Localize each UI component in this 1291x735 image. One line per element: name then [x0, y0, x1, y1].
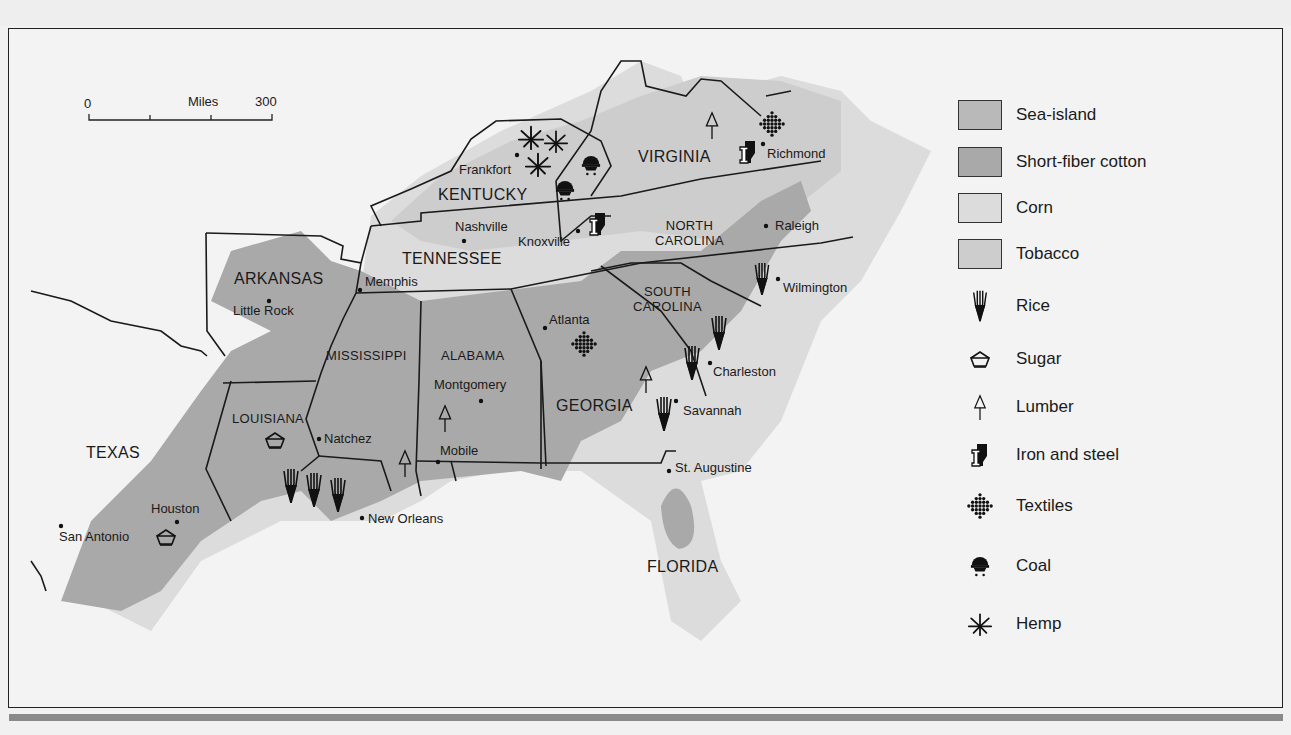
state-label-texas: TEXAS — [86, 444, 140, 462]
city-mobile: Mobile — [440, 443, 478, 458]
city-san-antonio: San Antonio — [59, 529, 129, 544]
city-natchez: Natchez — [324, 431, 372, 446]
legend-item-rice: Rice — [958, 291, 1050, 321]
lumber-icon — [958, 392, 1002, 422]
state-label-south-carolina: SOUTHCAROLINA — [633, 284, 702, 314]
state-label-mississippi: MISSISSIPPI — [326, 348, 407, 363]
scale-bar — [89, 114, 272, 120]
tobacco-swatch — [958, 239, 1002, 269]
sugar-icon — [958, 344, 1002, 374]
legend-item-sea-island: Sea-island — [958, 100, 1096, 130]
textiles-icon — [958, 491, 1002, 521]
state-label-north-carolina: NORTHCAROLINA — [655, 218, 724, 248]
legend-item-iron-steel: Iron and steel — [958, 440, 1119, 470]
legend-item-sugar: Sugar — [958, 344, 1061, 374]
hemp-icon — [958, 609, 1002, 639]
page-top-strip — [0, 0, 1291, 26]
state-label-kentucky: KENTUCKY — [438, 186, 528, 204]
city-montgomery: Montgomery — [434, 377, 506, 392]
city-knoxville: Knoxville — [518, 234, 570, 249]
legend-item-coal: Coal — [958, 551, 1051, 581]
city-charleston: Charleston — [713, 364, 776, 379]
city-st-augustine: St. Augustine — [675, 460, 752, 475]
map-frame — [8, 28, 1283, 708]
city-atlanta: Atlanta — [549, 312, 589, 327]
sea-island-swatch — [958, 100, 1002, 130]
city-wilmington: Wilmington — [783, 280, 847, 295]
state-label-florida: FLORIDA — [647, 558, 718, 576]
state-label-arkansas: ARKANSAS — [234, 270, 324, 288]
city-raleigh: Raleigh — [775, 218, 819, 233]
city-savannah: Savannah — [683, 403, 742, 418]
bottom-divider — [9, 714, 1283, 721]
scale-unit: Miles — [188, 94, 218, 109]
city-frankfort: Frankfort — [459, 162, 511, 177]
legend-item-lumber: Lumber — [958, 392, 1074, 422]
state-label-louisiana: LOUISIANA — [232, 411, 304, 426]
scale-end: 300 — [255, 94, 277, 109]
short-fiber-cotton-swatch — [958, 147, 1002, 177]
city-new-orleans: New Orleans — [368, 511, 443, 526]
rice-icon — [958, 291, 1002, 321]
legend-item-tobacco: Tobacco — [958, 239, 1079, 269]
city-richmond: Richmond — [767, 146, 826, 161]
iron-steel-icon — [958, 440, 1002, 470]
city-houston: Houston — [151, 501, 199, 516]
state-label-alabama: ALABAMA — [441, 348, 505, 363]
state-label-georgia: GEORGIA — [556, 397, 633, 415]
state-label-tennessee: TENNESSEE — [402, 250, 502, 268]
legend-item-corn: Corn — [958, 193, 1053, 223]
scale-start: 0 — [84, 96, 91, 111]
legend-item-short-fiber-cotton: Short-fiber cotton — [958, 147, 1146, 177]
map-canvas — [9, 29, 1283, 708]
legend-item-textiles: Textiles — [958, 491, 1073, 521]
city-memphis: Memphis — [365, 274, 418, 289]
coal-icon — [958, 551, 1002, 581]
legend-item-hemp: Hemp — [958, 609, 1061, 639]
corn-swatch — [958, 193, 1002, 223]
city-nashville: Nashville — [455, 219, 508, 234]
city-little-rock: Little Rock — [233, 303, 294, 318]
state-label-virginia: VIRGINIA — [638, 148, 711, 166]
